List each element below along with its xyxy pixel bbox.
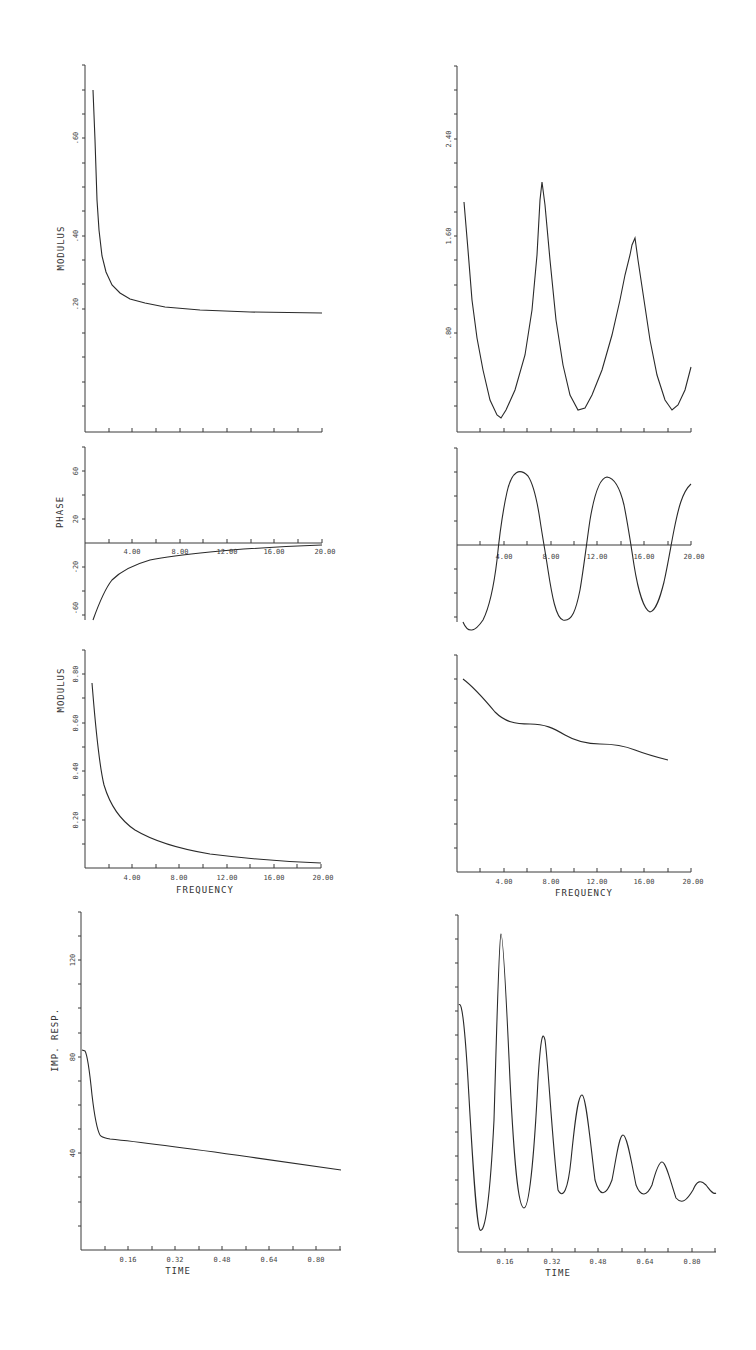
x-tick-label: 12.00 xyxy=(216,874,237,882)
x-ticks xyxy=(480,541,691,545)
y-tick-label: .20 xyxy=(72,298,80,311)
y-axis-label: MODULUS xyxy=(56,226,66,271)
x-tick-label: 20.00 xyxy=(683,553,704,561)
data-line xyxy=(92,683,321,863)
data-line xyxy=(459,934,716,1230)
y-tick-label: 1.60 xyxy=(445,228,453,245)
y-tick-label: 120 xyxy=(69,954,77,967)
x-ticks xyxy=(105,1246,340,1250)
data-line xyxy=(93,90,322,313)
x-tick-label: 0.80 xyxy=(308,1256,325,1264)
x-tick-label: 0.80 xyxy=(684,1258,701,1266)
x-tick-label: 0.48 xyxy=(214,1256,231,1264)
y-tick-label: 0.20 xyxy=(72,812,80,829)
x-ticks xyxy=(109,428,322,432)
data-line xyxy=(463,472,691,630)
y-axis-label: IMP. RESP. xyxy=(50,1008,60,1072)
x-tick-label: 0.32 xyxy=(167,1256,184,1264)
x-axis-label: FREQUENCY xyxy=(176,885,234,895)
y-tick-label: .60 xyxy=(72,132,80,145)
y-tick-label: 0.40 xyxy=(72,763,80,780)
y-tick-label: 2.40 xyxy=(445,131,453,148)
x-tick-label: 0.32 xyxy=(544,1258,561,1266)
y-tick-label: 60 xyxy=(72,467,80,475)
plot-row2-left: 4.00 8.00 12.00 16.00 20.00 -60 -20 20 6… xyxy=(55,447,336,620)
x-tick-label: 16.00 xyxy=(633,553,654,561)
y-tick-label: 80 xyxy=(69,1053,77,1061)
x-tick-label: 16.00 xyxy=(633,878,654,886)
x-tick-label: 16.00 xyxy=(263,874,284,882)
x-ticks xyxy=(109,864,321,868)
y-tick-label: 20 xyxy=(72,515,80,523)
x-tick-label: 20.00 xyxy=(682,878,703,886)
y-tick-label: 0.80 xyxy=(72,666,80,683)
x-tick-label: 4.00 xyxy=(124,874,141,882)
y-tick-label: 0.60 xyxy=(72,715,80,732)
y-tick-label: 40 xyxy=(69,1149,77,1157)
data-line xyxy=(82,1050,341,1170)
data-line xyxy=(464,182,691,418)
data-line xyxy=(463,679,668,760)
plot-row1-left: .20 .40 .60 MODULUS xyxy=(56,65,322,432)
plot-row3-left: 4.00 8.00 12.00 16.00 20.00 FREQUENCY 0.… xyxy=(56,650,334,895)
plot-row3-right: 4.00 8.00 12.00 16.00 20.00 FREQUENCY xyxy=(454,655,704,898)
x-axis-label: FREQUENCY xyxy=(555,888,613,898)
x-tick-label: 4.00 xyxy=(496,878,513,886)
x-tick-label: 0.64 xyxy=(261,1256,278,1264)
x-tick-label: 4.00 xyxy=(124,548,141,556)
y-axis-label: MODULUS xyxy=(56,668,66,713)
plot-row4-left: 0.16 0.32 0.48 0.64 0.80 TIME 40 80 120 … xyxy=(50,912,341,1276)
x-axis-label: TIME xyxy=(165,1266,191,1276)
plot-row4-right: 0.16 0.32 0.48 0.64 0.80 TIME xyxy=(455,915,716,1278)
data-line xyxy=(93,545,322,620)
x-tick-label: 12.00 xyxy=(586,553,607,561)
plot-row2-right: 4.00 8.00 12.00 16.00 20.00 xyxy=(454,448,705,630)
y-axis-label: PHASE xyxy=(55,496,65,528)
x-tick-label: 8.00 xyxy=(543,878,560,886)
plot-row1-right: .80 1.60 2.40 xyxy=(445,66,691,432)
x-tick-label: 8.00 xyxy=(171,874,188,882)
x-tick-label: 0.16 xyxy=(497,1258,514,1266)
x-ticks xyxy=(480,868,691,872)
x-tick-label: 0.16 xyxy=(120,1256,137,1264)
x-tick-label: 0.64 xyxy=(637,1258,654,1266)
y-tick-label: -20 xyxy=(72,561,80,574)
x-tick-label: 12.00 xyxy=(586,878,607,886)
x-axis-label: TIME xyxy=(545,1268,571,1278)
x-ticks xyxy=(109,539,322,543)
x-tick-label: 0.48 xyxy=(590,1258,607,1266)
y-tick-label: -60 xyxy=(72,602,80,615)
y-tick-label: .80 xyxy=(445,327,453,340)
y-tick-label: .40 xyxy=(72,230,80,243)
figure: .20 .40 .60 MODULUS .80 1.60 2.40 xyxy=(0,0,756,1350)
x-tick-label: 12.00 xyxy=(216,548,237,556)
x-tick-label: 20.00 xyxy=(312,874,333,882)
x-ticks xyxy=(481,1248,715,1252)
x-ticks xyxy=(480,428,691,432)
x-tick-label: 20.00 xyxy=(314,548,335,556)
x-tick-label: 16.00 xyxy=(263,548,284,556)
